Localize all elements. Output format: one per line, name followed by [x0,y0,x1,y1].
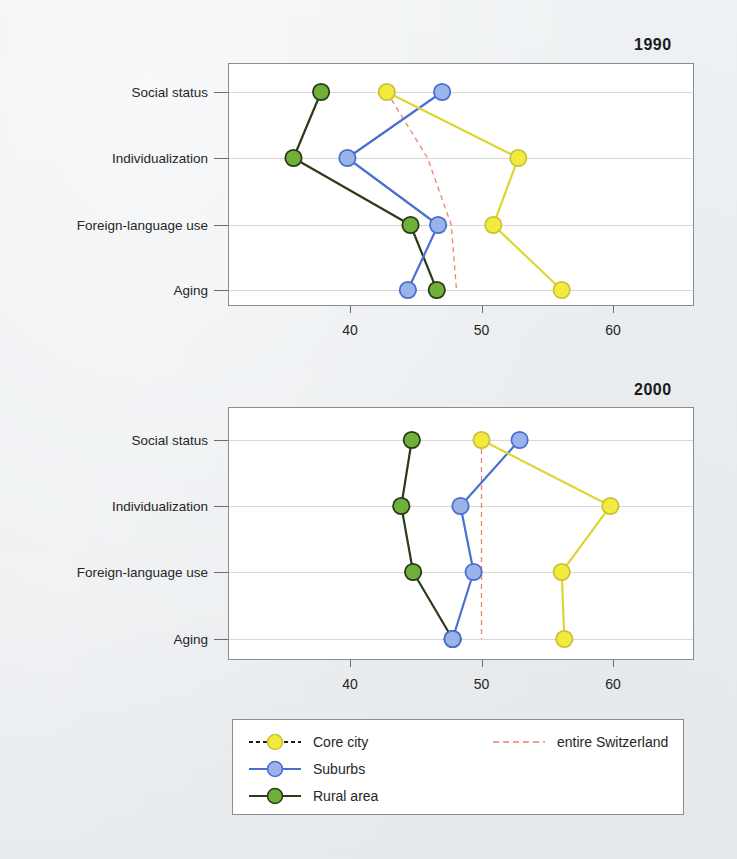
data-point-core-city-2000-0 [473,432,489,448]
data-point-rural-area-2000-2 [405,564,421,580]
series-layer-2000 [0,0,737,859]
series-line-rural-area-2000 [401,440,452,639]
data-point-core-city-2000-3 [556,631,572,647]
data-point-core-city-2000-1 [602,498,618,514]
series-line-core-city-2000 [482,440,611,639]
data-point-suburbs-2000-3 [444,631,460,647]
data-point-suburbs-2000-0 [511,432,527,448]
data-point-rural-area-2000-0 [404,432,420,448]
data-point-core-city-2000-2 [554,564,570,580]
data-point-suburbs-2000-1 [452,498,468,514]
series-line-suburbs-2000 [453,440,520,639]
data-point-rural-area-2000-1 [393,498,409,514]
data-point-suburbs-2000-2 [465,564,481,580]
